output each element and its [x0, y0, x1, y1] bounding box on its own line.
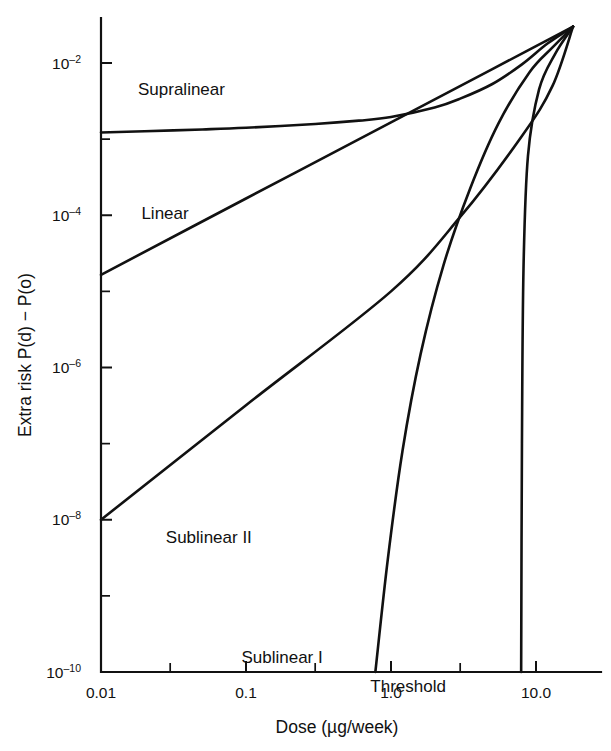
y-axis-title: Extra risk P(d) − P(o) — [15, 273, 35, 437]
curve-sublinear-ii — [101, 27, 573, 520]
curve-sublinear-i — [375, 27, 573, 672]
curve-label-threshold: Threshold — [370, 677, 446, 696]
x-tick-label: 0.1 — [235, 684, 257, 701]
y-tick-exponent: –6 — [69, 357, 81, 369]
curve-threshold — [521, 27, 573, 672]
y-tick-mantissa: 10 — [52, 207, 70, 224]
y-tick-label: 10–6 — [52, 357, 81, 376]
curve-label-supralinear: Supralinear — [138, 80, 225, 99]
curves — [101, 27, 573, 672]
curve-linear — [101, 27, 573, 275]
axes: 10–210–410–610–810–100.010.11.010.0 — [46, 18, 601, 701]
curve-labels: SupralinearLinearSublinear IISublinear I… — [138, 80, 446, 696]
y-tick-label: 10–8 — [52, 509, 81, 528]
y-tick-mantissa: 10 — [52, 511, 70, 528]
curve-label-sublinear-i: Sublinear I — [241, 648, 322, 667]
y-tick-exponent: –2 — [69, 53, 81, 65]
x-tick-label: 0.01 — [86, 684, 116, 701]
y-tick-exponent: –10 — [63, 662, 81, 674]
y-tick-mantissa: 10 — [52, 55, 70, 72]
x-axis-title: Dose (µg/week) — [276, 717, 399, 737]
dose-response-chart: 10–210–410–610–810–100.010.11.010.0 Supr… — [0, 0, 611, 751]
y-tick-mantissa: 10 — [52, 359, 70, 376]
y-tick-label: 10–10 — [46, 662, 81, 681]
y-tick-mantissa: 10 — [46, 664, 64, 681]
y-tick-label: 10–4 — [52, 205, 81, 224]
curve-label-linear: Linear — [141, 204, 189, 223]
axis-frame — [101, 18, 601, 672]
y-tick-label: 10–2 — [52, 53, 81, 72]
y-tick-exponent: –4 — [69, 205, 81, 217]
figure-container: 10–210–410–610–810–100.010.11.010.0 Supr… — [0, 0, 611, 751]
y-tick-exponent: –8 — [69, 509, 81, 521]
curve-label-sublinear-ii: Sublinear II — [166, 528, 252, 547]
x-tick-label: 10.0 — [521, 684, 552, 701]
